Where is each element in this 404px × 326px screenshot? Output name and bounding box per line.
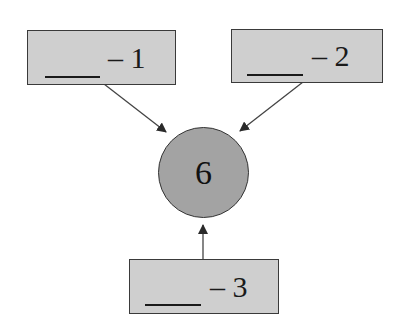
blank-line <box>145 304 201 306</box>
blank-line <box>45 76 100 78</box>
arrow-box2-to-center <box>240 82 303 131</box>
box-2: – 2 <box>231 29 383 83</box>
center-label: 6 <box>195 154 212 192</box>
box-1: – 1 <box>27 30 176 85</box>
box-label: – 2 <box>312 41 350 71</box>
box-label: – 3 <box>210 272 248 302</box>
blank-line <box>247 74 303 76</box>
box-3: – 3 <box>129 259 279 314</box>
arrow-box1-to-center <box>104 84 166 132</box>
center-node: 6 <box>158 127 249 218</box>
box-label: – 1 <box>108 43 146 73</box>
